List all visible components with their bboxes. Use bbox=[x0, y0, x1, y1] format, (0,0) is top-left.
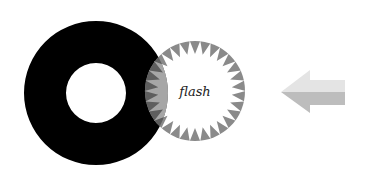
flash-label: flash bbox=[178, 84, 210, 99]
left-arrow-icon bbox=[281, 70, 345, 113]
diagram-canvas: flash bbox=[0, 0, 367, 177]
